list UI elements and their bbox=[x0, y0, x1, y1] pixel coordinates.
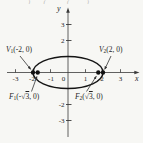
x-tick-label-neg1: -1 bbox=[45, 75, 57, 83]
f2-coordinates-open: (√ bbox=[82, 92, 89, 101]
f1-subscript: 1 bbox=[14, 95, 17, 101]
x-tick-label-1: 1 bbox=[80, 75, 92, 83]
f2-coordinates-close: , 0) bbox=[93, 92, 103, 101]
focus-f1-label: F1(-√3, 0) bbox=[9, 93, 39, 101]
v1-coordinates: (-2, 0) bbox=[13, 45, 32, 54]
x-tick-label-2: 2 bbox=[96, 75, 108, 83]
vertex-v2-label: V2(2, 0) bbox=[99, 46, 123, 54]
v2-leader-line bbox=[105, 56, 111, 69]
origin-label: 0 bbox=[58, 75, 70, 83]
f1-coordinates-close: , 0) bbox=[29, 92, 39, 101]
y-axis-label: y bbox=[57, 4, 61, 13]
y-tick-label-neg2: -2 bbox=[52, 101, 65, 109]
ellipse-figure: ‾ ‾) ‾ ( ‾ ‾ ( ‾ ‾) bbox=[0, 0, 143, 143]
x-tick-label-neg2: -2 bbox=[26, 75, 38, 83]
y-tick-label-2: 2 bbox=[52, 37, 65, 45]
f2-symbol: F bbox=[75, 92, 80, 101]
v1-leader-line bbox=[20, 56, 31, 69]
v2-symbol: V bbox=[99, 45, 104, 54]
coordinate-plane bbox=[0, 0, 143, 143]
y-axis-arrow-icon bbox=[66, 8, 70, 13]
x-axis-label: x bbox=[135, 74, 139, 83]
v2-coordinates: (2, 0) bbox=[106, 45, 122, 54]
f2-subscript: 2 bbox=[80, 95, 83, 101]
v1-subscript: 1 bbox=[11, 48, 14, 54]
x-tick-label-neg3: -3 bbox=[10, 75, 22, 83]
y-tick-label-3: 3 bbox=[52, 21, 65, 29]
v2-subscript: 2 bbox=[104, 48, 107, 54]
y-tick-label-neg3: -3 bbox=[52, 117, 65, 125]
focus-f2-label: F2(√3, 0) bbox=[75, 93, 103, 101]
x-tick-label-3: 3 bbox=[115, 75, 127, 83]
v1-symbol: V bbox=[6, 45, 11, 54]
f1-symbol: F bbox=[9, 92, 14, 101]
vertex-v1-label: V1(-2, 0) bbox=[6, 46, 32, 54]
